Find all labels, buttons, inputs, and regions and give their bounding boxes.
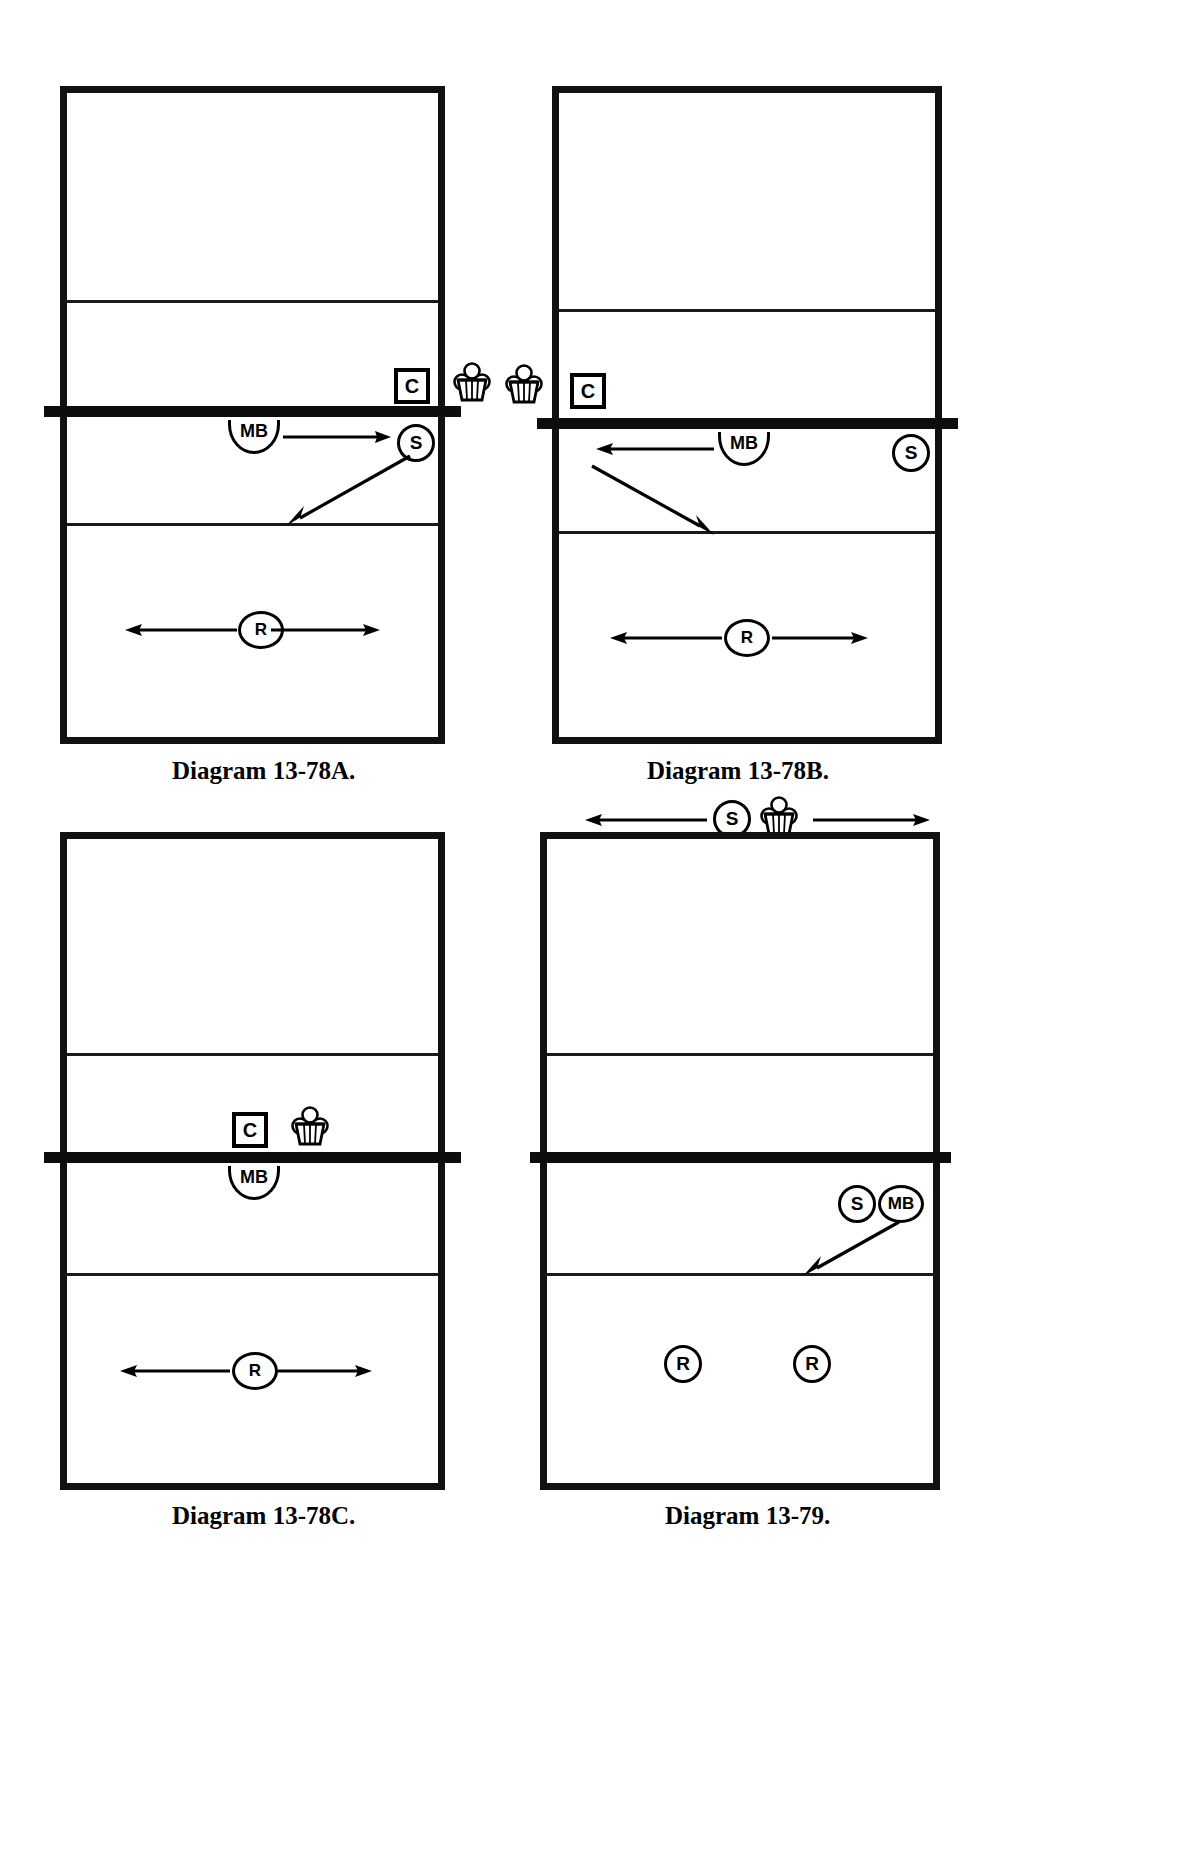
attack-line-far-d: [547, 1053, 933, 1056]
attack-line-far-a: [67, 300, 438, 303]
arrow-mb-left-b: [596, 437, 714, 465]
marker-setter-b: S: [892, 434, 930, 472]
marker-receiver-left-d: R: [664, 1345, 702, 1383]
marker-receiver-right-d: R: [793, 1345, 831, 1383]
arrow-receiver-range-a: [125, 618, 380, 646]
marker-coach-b: C: [570, 373, 606, 409]
diagram-page: C MB S R: [0, 0, 1197, 1873]
caption-13-78b: Diagram 13-78B.: [647, 757, 829, 785]
arrow-set-diagonal-a: [280, 452, 415, 534]
attack-line-far-c: [67, 1053, 438, 1056]
net-line-c: [44, 1152, 461, 1163]
ball-cart-a: [450, 362, 494, 402]
ball-cart-b: [502, 364, 546, 404]
arrow-receiver-range-c: [120, 1359, 372, 1387]
arrow-mb-to-setter-a: [283, 425, 393, 453]
attack-line-far-b: [559, 309, 935, 312]
arrow-attack-diagonal-d: [795, 1218, 905, 1284]
net-line-d: [530, 1152, 951, 1163]
caption-13-78c: Diagram 13-78C.: [172, 1502, 355, 1530]
marker-coach-c: C: [232, 1112, 268, 1148]
ball-cart-c: [288, 1106, 332, 1146]
arrow-set-diagonal-b: [588, 462, 718, 544]
arrow-receiver-range-b: [610, 626, 868, 654]
caption-13-78a: Diagram 13-78A.: [172, 757, 355, 785]
marker-coach-a: C: [394, 368, 430, 404]
net-line-b: [537, 418, 958, 429]
net-line-a: [44, 406, 461, 417]
attack-line-near-c: [67, 1273, 438, 1276]
caption-13-79: Diagram 13-79.: [665, 1502, 830, 1530]
